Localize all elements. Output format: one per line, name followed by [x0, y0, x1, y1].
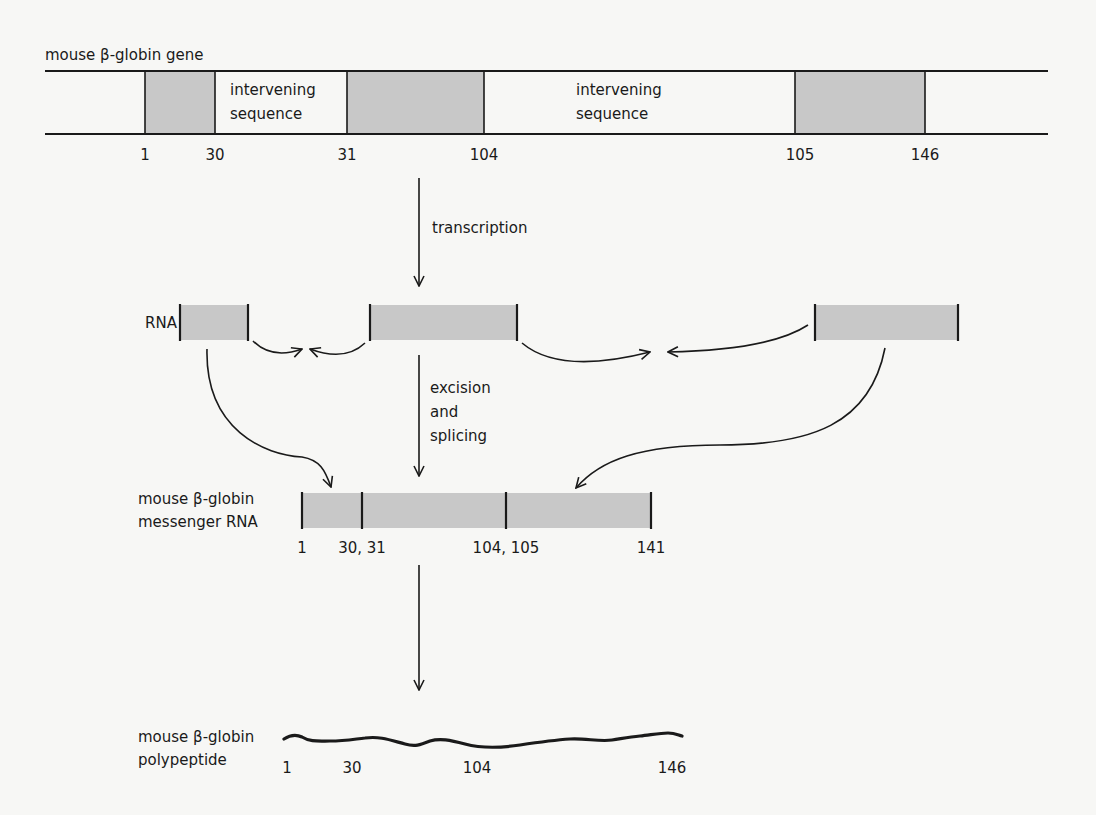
splice-arrow-1-left [310, 343, 365, 354]
gene-exon-1 [145, 71, 215, 134]
mrna-pos-1: 1 [297, 539, 307, 557]
gene-pos-31: 31 [337, 146, 356, 164]
gene-splicing-diagram: mouse β-globin gene intervening sequence… [0, 0, 1096, 815]
rna-exon-2 [370, 304, 517, 341]
poly-pos-30: 30 [342, 759, 361, 777]
exon-3-to-mrna-arrow [576, 348, 885, 488]
poly-pos-146: 146 [658, 759, 687, 777]
polypeptide-label-line1: mouse β-globin [138, 728, 254, 746]
mrna-bar [302, 492, 651, 529]
intron-2-label-line1: intervening [576, 81, 662, 99]
gene-title: mouse β-globin gene [45, 46, 203, 64]
mrna-label-line1: mouse β-globin [138, 490, 254, 508]
poly-pos-1: 1 [282, 759, 292, 777]
exon-1-to-mrna-arrow [207, 349, 331, 487]
gene-pos-30: 30 [205, 146, 224, 164]
gene-exon-2 [347, 71, 484, 134]
splice-arrow-1-right [253, 341, 302, 353]
gene-exon-3 [795, 71, 925, 134]
gene-pos-146: 146 [911, 146, 940, 164]
poly-pos-104: 104 [463, 759, 492, 777]
mrna-pos-141: 141 [637, 539, 666, 557]
splice-arrow-2-right [522, 343, 650, 362]
gene-pos-105: 105 [786, 146, 815, 164]
rna-exon-1 [180, 304, 248, 341]
mrna-pos-30-31: 30, 31 [338, 539, 386, 557]
intron-1-label-line1: intervening [230, 81, 316, 99]
gene-pos-104: 104 [470, 146, 499, 164]
gene-pos-1: 1 [140, 146, 150, 164]
splice-arrow-2-left [668, 325, 808, 352]
rna-label: RNA [145, 314, 178, 332]
excision-label-line3: splicing [430, 427, 487, 445]
polypeptide-chain [284, 733, 682, 747]
transcription-label: transcription [432, 219, 527, 237]
rna-exon-3 [815, 304, 958, 341]
mrna-label-line2: messenger RNA [138, 513, 259, 531]
polypeptide-label-line2: polypeptide [138, 751, 227, 769]
excision-label-line1: excision [430, 379, 491, 397]
intron-2-label-line2: sequence [576, 105, 648, 123]
excision-label-line2: and [430, 403, 458, 421]
mrna-pos-104-105: 104, 105 [473, 539, 540, 557]
intron-1-label-line2: sequence [230, 105, 302, 123]
